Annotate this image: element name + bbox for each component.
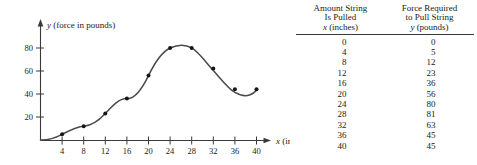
table-row: 8 12	[296, 58, 474, 68]
data-point	[168, 46, 172, 50]
cell-y: 5	[385, 47, 474, 57]
data-point	[60, 132, 64, 136]
y-tick-label-40: 40	[25, 89, 34, 99]
table-row: 28 81	[296, 110, 474, 120]
cell-x: 8	[296, 58, 385, 68]
cell-x-value: 36	[335, 131, 347, 140]
cell-x: 28	[296, 110, 385, 120]
data-table-panel: Amount String Is Pulled x (inches) Force…	[296, 4, 474, 151]
x-tick-label-20: 20	[144, 146, 153, 156]
cell-y: 12	[385, 58, 474, 68]
cell-y-value: 56	[424, 90, 436, 99]
column-header-y-units: y (pounds)	[387, 23, 472, 32]
cell-x: 12	[296, 68, 385, 78]
cell-y: 80	[385, 99, 474, 109]
cell-x-value: 28	[335, 110, 347, 119]
cell-x: 16	[296, 79, 385, 89]
x-tick-label-4: 4	[60, 146, 65, 156]
column-header-y-unit-text: (pounds)	[414, 22, 448, 32]
cell-y-value: 36	[424, 79, 436, 88]
cell-y: 0	[385, 35, 474, 48]
cell-y-value: 5	[424, 48, 436, 57]
y-axis-label: y (force in pounds)	[46, 20, 115, 30]
data-point	[103, 112, 107, 116]
data-point	[125, 97, 129, 101]
cell-x-value: 16	[335, 79, 347, 88]
table-row: 12 23	[296, 68, 474, 78]
column-header-x: Amount String Is Pulled x (inches)	[296, 4, 385, 35]
force-data-table: Amount String Is Pulled x (inches) Force…	[296, 4, 474, 151]
x-tick-label-16: 16	[123, 146, 132, 156]
fitted-curve	[41, 45, 257, 140]
x-tick-label-8: 8	[82, 146, 86, 156]
cell-y-value: 45	[424, 142, 436, 151]
cell-x-value: 20	[335, 90, 347, 99]
column-header-x-unit-text: (inches)	[327, 22, 358, 32]
table-body: 0 0 4 5 8 12 12 23 16 36 20 56	[296, 35, 474, 152]
y-axis	[38, 19, 44, 140]
cell-y: 23	[385, 68, 474, 78]
table-row: 20 56	[296, 89, 474, 99]
cell-y: 56	[385, 89, 474, 99]
cell-y-value: 0	[424, 38, 436, 47]
cell-x-value: 4	[335, 48, 347, 57]
y-axis-label-units: (force in pounds)	[51, 20, 115, 30]
table-row: 24 80	[296, 99, 474, 109]
data-point	[255, 87, 259, 91]
cell-x-value: 40	[335, 142, 347, 151]
table-row: 32 63	[296, 120, 474, 130]
data-points	[60, 46, 258, 136]
data-point	[147, 74, 151, 78]
x-axis-label: x (inches)	[275, 136, 290, 146]
column-header-y: Force Required to Pull String y (pounds)	[385, 4, 474, 35]
scatter-plot-figure: 80 60 40 20 4 8 12 16 20 24 28 3	[0, 0, 290, 165]
cell-x-value: 12	[335, 69, 347, 78]
x-axis	[41, 138, 272, 144]
cell-x: 4	[296, 47, 385, 57]
data-point	[211, 67, 215, 71]
cell-y-value: 80	[424, 100, 436, 109]
table-row: 4 5	[296, 47, 474, 57]
table-row: 40 45	[296, 141, 474, 151]
cell-x-value: 8	[335, 58, 347, 67]
x-tick-label-12: 12	[101, 146, 110, 156]
x-tick-label-28: 28	[187, 146, 196, 156]
cell-y: 81	[385, 110, 474, 120]
table-row: 36 45	[296, 131, 474, 141]
cell-y-value: 81	[424, 110, 436, 119]
y-axis-tick-labels: 80 60 40 20	[25, 43, 34, 122]
cell-y-value: 63	[424, 121, 436, 130]
cell-y: 63	[385, 120, 474, 130]
cell-y-value: 12	[424, 58, 436, 67]
cell-x-value: 0	[335, 38, 347, 47]
plot-canvas: 80 60 40 20 4 8 12 16 20 24 28 3	[0, 0, 290, 165]
cell-x: 0	[296, 35, 385, 48]
cell-x: 32	[296, 120, 385, 130]
y-tick-label-80: 80	[25, 43, 34, 53]
x-axis-tick-labels: 4 8 12 16 20 24 28 32 36 40	[60, 146, 261, 156]
cell-y: 45	[385, 131, 474, 141]
cell-x: 20	[296, 89, 385, 99]
cell-y: 36	[385, 79, 474, 89]
column-header-x-units: x (inches)	[298, 23, 383, 32]
cell-y: 45	[385, 141, 474, 151]
table-row: 0 0	[296, 35, 474, 48]
data-point	[190, 46, 194, 50]
x-tick-label-40: 40	[252, 146, 261, 156]
y-tick-label-60: 60	[25, 66, 34, 76]
x-tick-label-36: 36	[231, 146, 240, 156]
data-point	[233, 87, 237, 91]
cell-x-value: 32	[335, 121, 347, 130]
cell-x-value: 24	[335, 100, 347, 109]
cell-x: 24	[296, 99, 385, 109]
table-header-row: Amount String Is Pulled x (inches) Force…	[296, 4, 474, 35]
x-axis-label-units: (inches)	[280, 136, 290, 146]
y-tick-label-20: 20	[25, 112, 34, 122]
cell-y-value: 23	[424, 69, 436, 78]
x-tick-label-24: 24	[166, 146, 175, 156]
cell-x: 36	[296, 131, 385, 141]
cell-y-value: 45	[424, 131, 436, 140]
table-row: 16 36	[296, 79, 474, 89]
cell-x: 40	[296, 141, 385, 151]
x-tick-label-32: 32	[209, 146, 218, 156]
